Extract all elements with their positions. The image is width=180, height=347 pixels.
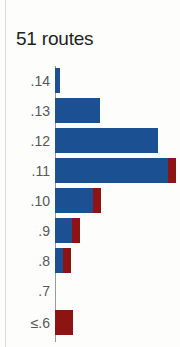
bar-segment-red — [72, 218, 80, 243]
bar-segment-blue — [55, 128, 158, 153]
tick-label: ≤.6 — [0, 316, 50, 330]
bar-row: .11 — [0, 158, 180, 188]
bar — [55, 218, 80, 243]
bar — [55, 310, 73, 335]
bar-segment-blue — [55, 218, 72, 243]
bar-row: .12 — [0, 128, 180, 158]
bar-segment-blue — [55, 158, 168, 183]
bar-segment-red — [55, 310, 73, 335]
bar-row: .10 — [0, 188, 180, 218]
bar-row: .9 — [0, 218, 180, 248]
plot-area: .14.13.12.11.10.9.8.7≤.6 — [0, 66, 180, 342]
bar-segment-red — [168, 158, 176, 183]
bar-segment-blue — [55, 248, 63, 273]
bar-segment-blue — [55, 188, 93, 213]
bar-segment-red — [93, 188, 101, 213]
bar-segment-blue — [55, 68, 60, 93]
tick-label: .9 — [0, 224, 50, 238]
tick-label: .11 — [0, 164, 50, 178]
bar — [55, 158, 176, 183]
bar — [55, 128, 158, 153]
bar-segment-red — [63, 248, 71, 273]
bar-row: ≤.6 — [0, 310, 180, 340]
bar-chart-figure: 51 routes .14.13.12.11.10.9.8.7≤.6 — [0, 0, 180, 347]
bar-row: .8 — [0, 248, 180, 278]
tick-label: .10 — [0, 194, 50, 208]
bar-segment-blue — [55, 98, 100, 123]
bar — [55, 248, 71, 273]
chart-title: 51 routes — [16, 28, 93, 50]
bar-row: .13 — [0, 98, 180, 128]
bar — [55, 98, 100, 123]
bar — [55, 68, 60, 93]
tick-label: .8 — [0, 254, 50, 268]
bar-row: .14 — [0, 68, 180, 98]
bar — [55, 188, 101, 213]
bar-row: .7 — [0, 278, 180, 308]
tick-label: .12 — [0, 134, 50, 148]
tick-label: .14 — [0, 74, 50, 88]
tick-label: .7 — [0, 284, 50, 298]
tick-label: .13 — [0, 104, 50, 118]
